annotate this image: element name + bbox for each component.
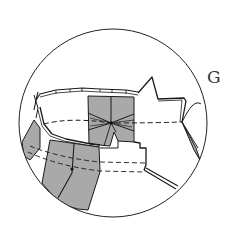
folding-diagram: [0, 0, 226, 233]
right-diagonal-strip: [144, 168, 178, 189]
step-label: G: [207, 69, 221, 86]
right-gray-sliver: [182, 122, 200, 160]
right-stepped-wall: [134, 142, 146, 170]
detail-circle-contents: [22, 77, 201, 210]
star-point: [138, 77, 186, 122]
